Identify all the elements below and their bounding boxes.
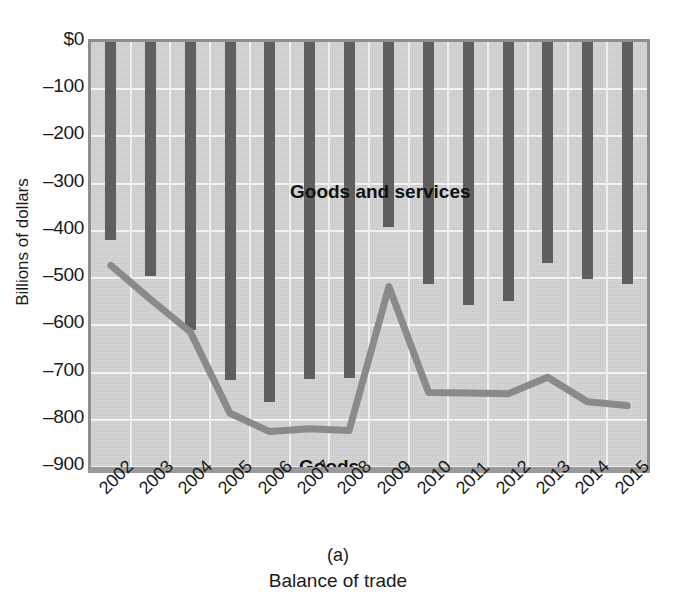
- y-axis-tick-label: –100: [6, 76, 84, 95]
- panel-letter: (a): [0, 545, 676, 566]
- y-axis-tick-label: –800: [6, 407, 84, 426]
- y-axis-tick-label: –400: [6, 218, 84, 237]
- figure-balance-of-trade: Billions of dollars $0–100–200–300–400–5…: [0, 0, 676, 599]
- y-axis-tick-label: –300: [6, 171, 84, 190]
- y-axis-tick-label: –700: [6, 360, 84, 379]
- y-axis-tick-label: –500: [6, 265, 84, 284]
- cropped-header-strip: [0, 0, 676, 16]
- y-axis-tick-label: –200: [6, 123, 84, 142]
- plot-area: Goods and services Goods: [88, 39, 650, 473]
- y-axis-ticks: $0–100–200–300–400–500–600–700–800–900: [0, 0, 84, 599]
- series-label-goods-and-services: Goods and services: [290, 181, 471, 203]
- y-axis-tick-label: –900: [6, 454, 84, 473]
- y-axis-tick-label: –600: [6, 312, 84, 331]
- line-series-goods: [91, 42, 647, 467]
- figure-caption: Balance of trade: [0, 570, 676, 592]
- y-axis-tick-label: $0: [6, 29, 84, 48]
